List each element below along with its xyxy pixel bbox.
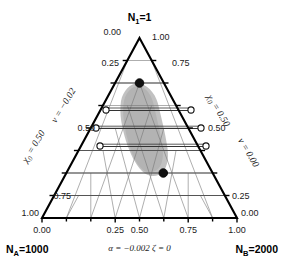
tie-line-3-right-marker (203, 143, 209, 149)
tie-line-1-right-marker (188, 107, 194, 113)
apex-corner-eq: =1 (139, 11, 151, 23)
right-corner-main: N (235, 243, 243, 255)
right-corner-eq: =2000 (249, 243, 279, 255)
lower-critical-point-marker (159, 169, 168, 178)
left-corner-eq: =1000 (19, 243, 49, 255)
right-tick-0.75: 0.75 (172, 58, 190, 68)
right-tick-0.25: 0.25 (232, 191, 250, 201)
bottom-tick-0.75: 0.75 (179, 225, 197, 235)
tie-line-2-right-marker (198, 125, 204, 131)
left-corner-main: N (6, 243, 14, 255)
left-tick-0.50: 0.50 (77, 123, 95, 133)
upper-critical-point-marker (135, 79, 144, 88)
bottom-parameter-note: α = −0.002 ζ = 0 (108, 243, 171, 253)
apex-tick-right: 1.00 (152, 32, 170, 42)
ternary-plot-svg: 0.00 1.00 0.25 0.50 0.75 1.00 0.75 0.50 … (0, 0, 284, 273)
left-tick-0.75: 0.75 (53, 191, 71, 201)
tie-line-3-left-marker (97, 143, 103, 149)
apex-corner-main: N (128, 11, 136, 23)
bottom-tick-0.25: 0.25 (106, 225, 124, 235)
apex-tick-left: 0.00 (103, 27, 121, 37)
left-tick-0.25: 0.25 (101, 58, 119, 68)
bottom-tick-0.00: 0.00 (33, 225, 51, 235)
left-tick-1.00: 1.00 (21, 208, 39, 218)
bottom-tick-1.00: 1.00 (228, 225, 246, 235)
tie-line-1-left-marker (103, 107, 109, 113)
ternary-diagram-figure: 0.00 1.00 0.25 0.50 0.75 1.00 0.75 0.50 … (0, 0, 284, 273)
bottom-tick-0.50: 0.50 (131, 225, 149, 235)
right-tick-0.00: 0.00 (241, 208, 259, 218)
